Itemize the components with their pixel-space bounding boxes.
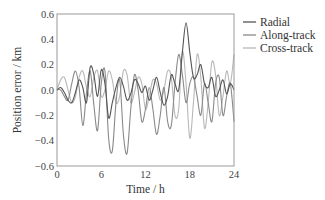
y-tick-label: 0.6 (41, 9, 54, 20)
position-error-chart: 0.60.40.20.0−0.2−0.4−0.6 06121824 Time /… (0, 0, 325, 200)
y-tick-label: 0.4 (41, 34, 55, 45)
y-axis-label: Position error / km (11, 47, 23, 134)
legend-item-along-track: Along-track (243, 29, 316, 42)
series-line-radial (57, 23, 234, 118)
x-tick-label: 18 (185, 169, 196, 180)
y-tick-label: −0.4 (35, 135, 55, 146)
y-axis-ticks: 0.60.40.20.0−0.2−0.4−0.6 (35, 9, 55, 172)
y-tick-label: −0.2 (35, 110, 54, 121)
y-tick-label: −0.6 (35, 161, 54, 172)
legend-item-radial: Radial (243, 16, 290, 28)
x-axis-ticks: 06121824 (54, 169, 240, 180)
legend-label-cross-track: Cross-track (260, 42, 313, 54)
x-tick-label: 12 (140, 169, 151, 180)
y-tick-label: 0.0 (41, 85, 54, 96)
legend-item-cross-track: Cross-track (243, 42, 313, 54)
legend-label-along-track: Along-track (260, 29, 316, 42)
legend: Radial Along-track Cross-track (243, 16, 316, 54)
x-tick-label: 0 (54, 169, 59, 180)
series-line-along-track (57, 54, 234, 154)
x-tick-label: 24 (229, 169, 240, 180)
x-axis-label: Time / h (126, 183, 165, 195)
plot-series (57, 23, 234, 154)
x-tick-label: 6 (99, 169, 104, 180)
y-tick-label: 0.2 (41, 59, 54, 70)
legend-label-radial: Radial (260, 16, 290, 28)
